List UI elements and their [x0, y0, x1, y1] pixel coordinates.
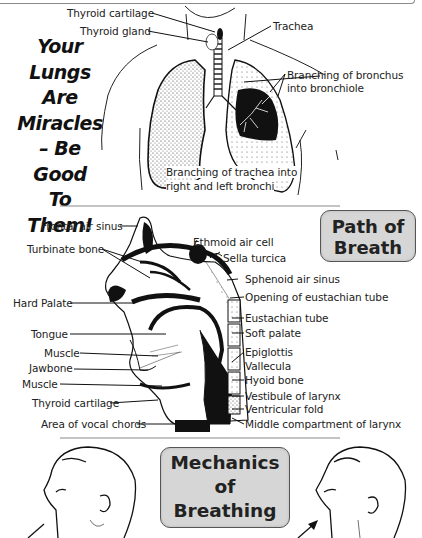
label-epiglottis: Epiglottis [245, 346, 293, 358]
label-turbinate-bone: Turbinate bone [27, 243, 104, 255]
label-muscle-1: Muscle [44, 347, 80, 359]
label-hard-palate: Hard Palate [13, 297, 73, 309]
label-branching-bronchus-2: into bronchiole [287, 82, 364, 94]
label-soft-palate: Soft palate [245, 327, 301, 339]
label-eustachian-tube: Eustachian tube [245, 312, 328, 324]
inhale-arrow-icon [298, 520, 318, 538]
label-middle-compartment: Middle compartment of larynx [245, 418, 401, 430]
label-vocal-chords: Area of vocal chords [41, 418, 146, 430]
path-title-line1: Path of [321, 216, 415, 237]
path-of-breath-title: Path of Breath [320, 210, 416, 262]
label-thyroid-cartilage-path: Thyroid cartilage [32, 397, 119, 409]
label-ethmoid-air-cell: Ethmoid air cell [193, 236, 273, 248]
mechanics-title-line2: of [161, 475, 289, 499]
label-vallecula: Vallecula [245, 360, 291, 372]
label-sella-turcica: Sella turcica [223, 252, 286, 264]
head-left-exhale [28, 447, 136, 538]
label-sphenoid-air-sinus: Sphenoid air sinus [245, 273, 340, 285]
label-branching-trachea-1: Branching of trachea into [166, 166, 297, 178]
label-hyoid-bone: Hyoid bone [245, 374, 304, 386]
label-muscle-2: Muscle [22, 378, 58, 390]
thyroid-cartilage-shape [217, 28, 223, 40]
mechanics-title-line3: Breathing [161, 499, 289, 523]
label-jawbone: Jawbone [29, 362, 73, 374]
label-opening-eustachian-tube: Opening of eustachian tube [245, 291, 388, 303]
mechanics-of-breathing-title: Mechanics of Breathing [160, 447, 290, 528]
label-frontal-air-sinus: Frontal air sinus [41, 220, 123, 232]
label-branching-bronchus-1: Branching of bronchus [287, 69, 403, 81]
label-ventricular-fold: Ventricular fold [245, 403, 323, 415]
label-vestibule-larynx: Vestibule of larynx [245, 390, 341, 402]
label-thyroid-gland: Thyroid gland [80, 25, 151, 37]
head-right-inhale [316, 447, 406, 538]
label-tongue: Tongue [31, 328, 68, 340]
label-thyroid-cartilage-lungs: Thyroid cartilage [67, 7, 154, 19]
head-cross-section [106, 217, 248, 432]
path-title-line2: Breath [321, 237, 415, 258]
label-branching-trachea-2: right and left bronchi [166, 180, 274, 192]
label-trachea: Trachea [273, 20, 313, 32]
mechanics-title-line1: Mechanics [161, 451, 289, 475]
